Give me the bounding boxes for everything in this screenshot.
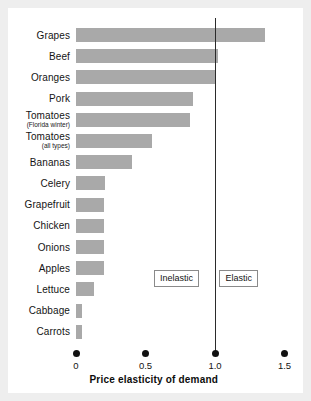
bar	[76, 92, 193, 106]
bar-category-label: Tomatoes(Florida winter)	[8, 109, 70, 131]
bar-category-name: Onions	[38, 242, 70, 253]
bar-category-label: Celery	[8, 172, 70, 194]
bar-category-name: Tomatoes	[26, 111, 70, 121]
bar	[76, 49, 218, 63]
bar-category-name: Celery	[41, 178, 71, 189]
bar-category-label: Carrots	[8, 321, 70, 343]
bar-category-sublabel: (all types)	[42, 142, 70, 150]
bar-row: Cabbage	[8, 300, 303, 322]
bar-row: Oranges	[8, 66, 303, 88]
bar-row: Celery	[8, 172, 303, 194]
bar-category-label: Grapefruit	[8, 194, 70, 216]
bar-category-label: Grapes	[8, 24, 70, 46]
bar-category-label: Tomatoes(all types)	[8, 130, 70, 152]
bar	[76, 219, 104, 233]
bar-category-name: Beef	[49, 51, 70, 62]
x-axis-title: Price elasticity of demand	[8, 374, 300, 385]
bar-row: Onions	[8, 236, 303, 258]
bar-row: Beef	[8, 45, 303, 67]
bar-row: Grapes	[8, 24, 303, 46]
bar	[76, 325, 82, 339]
bar-row: Pork	[8, 88, 303, 110]
bar	[76, 304, 82, 318]
bar-row: Chicken	[8, 215, 303, 237]
bar	[76, 240, 104, 254]
bar-category-name: Chicken	[33, 220, 70, 231]
bar-category-label: Oranges	[8, 66, 70, 88]
bar-row: Tomatoes(Florida winter)	[8, 109, 303, 131]
bar-category-name: Cabbage	[29, 305, 70, 316]
x-axis-tick-dot	[142, 350, 149, 357]
bar-category-name: Grapefruit	[25, 199, 70, 210]
bar-category-label: Bananas	[8, 151, 70, 173]
bar-row: Bananas	[8, 151, 303, 173]
region-label-inelastic: Inelastic	[154, 270, 199, 287]
x-axis-tick-dot	[212, 350, 219, 357]
bar	[76, 70, 215, 84]
region-label-elastic: Elastic	[219, 270, 258, 287]
bar-category-label: Onions	[8, 236, 70, 258]
bar-row: Carrots	[8, 321, 303, 343]
bar-category-name: Carrots	[37, 326, 70, 337]
x-axis-tick-label: 1.5	[270, 360, 300, 371]
bar-category-name: Pork	[49, 93, 70, 104]
bar-category-label: Beef	[8, 45, 70, 67]
bar-category-label: Lettuce	[8, 278, 70, 300]
bar	[76, 28, 265, 42]
bar-category-name: Lettuce	[36, 284, 70, 295]
bar-category-label: Chicken	[8, 215, 70, 237]
bar-category-name: Grapes	[37, 30, 70, 41]
x-axis-tick-dot	[281, 350, 288, 357]
x-axis-tick-label: 0.5	[131, 360, 161, 371]
x-axis-tick-label: 1.0	[200, 360, 230, 371]
bar-category-sublabel: (Florida winter)	[27, 121, 70, 129]
bar-category-name: Bananas	[30, 157, 70, 168]
bar-category-label: Apples	[8, 257, 70, 279]
bar-row: Tomatoes(all types)	[8, 130, 303, 152]
bar-category-name: Apples	[39, 263, 70, 274]
x-axis-tick-dot	[73, 350, 80, 357]
bar	[76, 176, 105, 190]
x-axis-tick-label: 0	[61, 360, 91, 371]
bar-category-label: Pork	[8, 88, 70, 110]
bar	[76, 134, 152, 148]
bar-category-name: Tomatoes	[26, 132, 70, 142]
bar	[76, 282, 94, 296]
bar	[76, 261, 104, 275]
chart-plot-area: GrapesBeefOrangesPorkTomatoes(Florida wi…	[8, 8, 303, 393]
chart-figure: GrapesBeefOrangesPorkTomatoes(Florida wi…	[8, 8, 303, 393]
unit-elastic-divider-line	[215, 18, 216, 354]
bar-row: Grapefruit	[8, 194, 303, 216]
bar	[76, 113, 190, 127]
bar-category-label: Cabbage	[8, 300, 70, 322]
bar-category-name: Oranges	[31, 72, 70, 83]
bar	[76, 198, 104, 212]
bar	[76, 155, 132, 169]
